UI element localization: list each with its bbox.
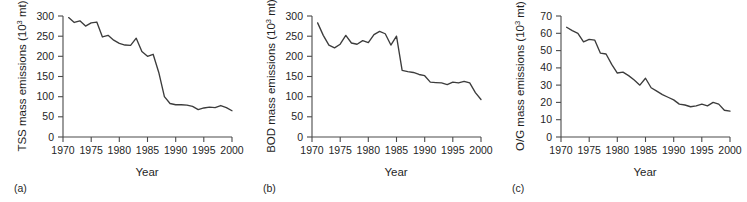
x-tick-label: 1985 [634,144,658,156]
panel-a-x-ticks [63,137,232,142]
y-tick-label: 200 [36,50,54,62]
y-tick-label: 50 [291,110,303,122]
panel-a-y-tick-labels: 0 50 100 150 200 250 300 [36,10,54,143]
x-axis-title-c: Year [633,166,656,178]
y-tick-label: 300 [36,10,54,22]
panel-c-x-tick-labels: 1970 1975 1980 1985 1990 1995 2000 [549,144,742,156]
y-tick-label: 150 [285,70,303,82]
panel-c-axes [561,16,730,137]
panel-a-y-ticks [58,16,63,137]
x-tick-label: 1980 [357,144,381,156]
x-tick-label: 1990 [662,144,686,156]
x-tick-label: 1990 [413,144,437,156]
y-tick-label: 50 [42,110,54,122]
panel-a-axes [63,16,232,137]
data-series-line-c [567,27,730,111]
x-tick-label: 1970 [300,144,324,156]
y-tick-label: 70 [540,10,552,22]
y-tick-label: 20 [540,96,552,108]
y-tick-label: 0 [48,131,54,143]
y-tick-label: 30 [540,79,552,91]
y-tick-label: 10 [540,113,552,125]
x-tick-label: 2000 [220,144,244,156]
y-tick-label: 250 [285,30,303,42]
x-axis-title-b: Year [384,166,407,178]
x-tick-label: 1995 [192,144,216,156]
panel-b-axes [312,16,481,137]
x-tick-label: 1975 [578,144,602,156]
panel-b-chart: 0 50 100 150 200 250 300 1970 1975 1980 … [249,0,498,202]
y-tick-label: 40 [540,61,552,73]
y-tick-label: 100 [36,90,54,102]
panel-letter-c: (c) [512,182,524,194]
x-axis-title-a: Year [135,166,158,178]
y-tick-label: 250 [36,30,54,42]
panel-b: 0 50 100 150 200 250 300 1970 1975 1980 … [249,0,498,202]
x-tick-label: 2000 [718,144,742,156]
panel-a-chart: 0 50 100 150 200 250 300 1970 1975 1980 … [0,0,249,202]
y-tick-label: 50 [540,44,552,56]
x-tick-label: 1990 [164,144,188,156]
panel-c-x-ticks [561,137,730,142]
y-tick-label: 0 [546,131,552,143]
panel-b-x-tick-labels: 1970 1975 1980 1985 1990 1995 2000 [300,144,493,156]
x-tick-label: 1980 [108,144,132,156]
data-series-line-a [69,18,232,111]
x-tick-label: 1985 [385,144,409,156]
data-series-line-b [318,23,481,100]
y-axis-title-c: O/G mass emissions (103 mt) [513,1,526,151]
figure-three-panel-emissions: 0 50 100 150 200 250 300 1970 1975 1980 … [0,0,747,202]
y-axis-title-a: TSS mass emissions (103 mt) [15,0,28,151]
y-tick-label: 0 [297,131,303,143]
panel-c-chart: 0 10 20 30 40 50 60 70 1970 1975 1980 19… [498,0,747,202]
x-tick-label: 1985 [136,144,160,156]
y-tick-label: 150 [36,70,54,82]
panel-letter-b: (b) [263,182,276,194]
y-tick-label: 60 [540,27,552,39]
panel-b-y-tick-labels: 0 50 100 150 200 250 300 [285,10,303,143]
x-tick-label: 1980 [606,144,630,156]
panel-b-y-ticks [307,16,312,137]
x-tick-label: 1975 [80,144,104,156]
x-tick-label: 1970 [549,144,573,156]
x-tick-label: 1970 [51,144,75,156]
y-tick-label: 300 [285,10,303,22]
x-tick-label: 1995 [690,144,714,156]
panel-c-y-tick-labels: 0 10 20 30 40 50 60 70 [540,10,552,143]
panel-a: 0 50 100 150 200 250 300 1970 1975 1980 … [0,0,249,202]
panel-c-y-ticks [556,16,561,137]
x-tick-label: 1975 [329,144,353,156]
x-tick-label: 2000 [469,144,493,156]
panel-c: 0 10 20 30 40 50 60 70 1970 1975 1980 19… [498,0,747,202]
y-tick-label: 100 [285,90,303,102]
panel-letter-a: (a) [14,182,27,194]
panel-b-x-ticks [312,137,481,142]
y-axis-title-b: BOD mass emissions (103 mt) [264,0,277,153]
panel-a-x-tick-labels: 1970 1975 1980 1985 1990 1995 2000 [51,144,244,156]
x-tick-label: 1995 [441,144,465,156]
y-tick-label: 200 [285,50,303,62]
